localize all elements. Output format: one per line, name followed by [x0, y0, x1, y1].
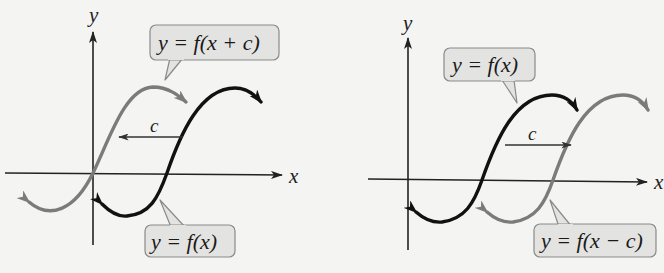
shifted-curve-f-x-plus-c [29, 87, 186, 211]
shift-amount-label: c [150, 115, 159, 136]
callout-label-f-x: y = f(x) [149, 229, 217, 254]
x-axis-label: x [288, 164, 299, 188]
y-axis-label: y [401, 11, 413, 35]
callout-label-f-x-plus-c: y = f(x + c) [156, 30, 260, 55]
y-axis-label: y [87, 3, 99, 27]
callout-f-x: y = f(x) [145, 200, 235, 257]
panel-right-shift: x y c y = f(x) y = f(x − c) [368, 11, 664, 257]
panel-left-shift: x y c y = f(x + c) y = f(x) [5, 3, 299, 257]
callout-label-f-x: y = f(x) [450, 52, 518, 77]
callout-f-x-plus-c: y = f(x + c) [150, 25, 279, 80]
x-axis [368, 179, 647, 182]
shift-amount-label: c [528, 123, 537, 144]
callout-label-f-x-minus-c: y = f(x − c) [539, 228, 643, 253]
x-axis-label: x [653, 170, 664, 194]
horizontal-shift-diagram: x y c y = f(x + c) y = f(x) x y [0, 0, 664, 273]
x-axis [5, 173, 282, 175]
callout-f-x: y = f(x) [444, 48, 535, 103]
callout-f-x-minus-c: y = f(x − c) [534, 200, 656, 257]
shifted-curve-f-x-minus-c [487, 95, 648, 222]
